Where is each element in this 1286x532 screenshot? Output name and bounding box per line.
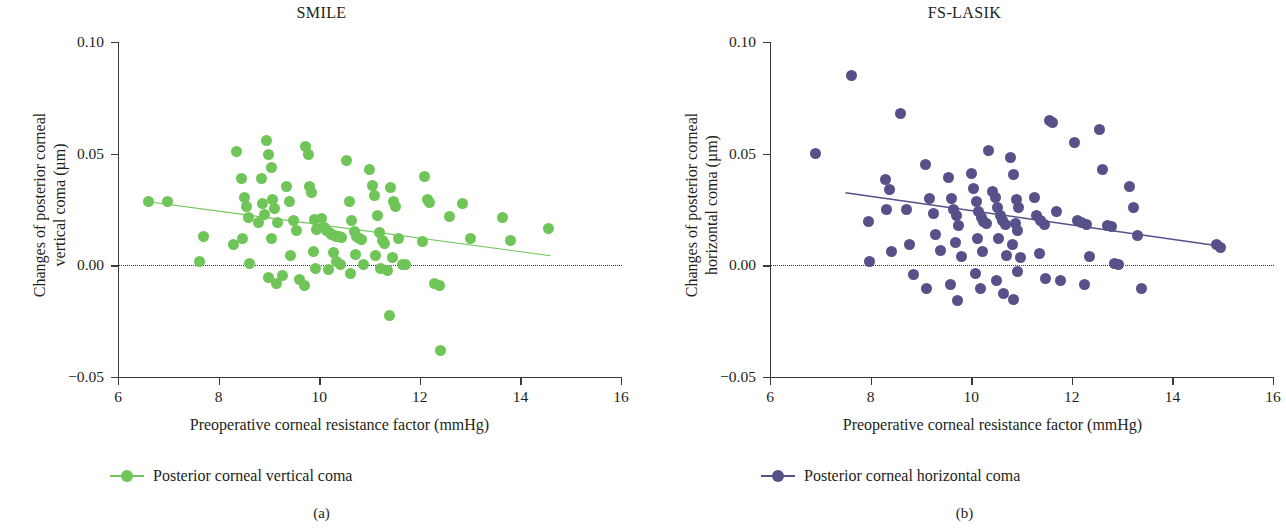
panel-a-x-tick-label: 8 [199, 388, 239, 406]
data-point [956, 251, 967, 262]
panel-b-x-tick [770, 378, 771, 385]
panel-a-plot-area [118, 42, 621, 377]
data-point [244, 258, 255, 269]
panel-a-y-axis-label-line2: vertical coma (µm) [50, 45, 70, 365]
data-point [971, 196, 982, 207]
panel-b-y-axis-label-line2: horizontal coma (µm) [702, 45, 722, 365]
panel-b-plot-area [770, 42, 1273, 377]
panel-b-x-tick-label: 8 [851, 388, 891, 406]
data-point [945, 279, 956, 290]
data-point [921, 283, 932, 294]
data-point [143, 196, 154, 207]
data-point [935, 245, 946, 256]
data-point [1113, 259, 1124, 270]
panel-a-x-tick [219, 378, 220, 385]
data-point [810, 148, 821, 159]
panel-a-y-tick [111, 42, 118, 43]
data-point [266, 233, 277, 244]
data-point [543, 223, 554, 234]
data-point [1136, 283, 1147, 294]
data-point [1094, 124, 1105, 135]
panel-a-x-tick-label: 10 [299, 388, 339, 406]
panel-b-y-tick [763, 154, 770, 155]
panel-b-y-tick-label: 0.05 [652, 145, 756, 163]
data-point [1001, 250, 1012, 261]
panel-b-y-tick [763, 377, 770, 378]
data-point [281, 181, 292, 192]
panel-b-y-tick [763, 265, 770, 266]
panel-b-legend-marker-icon [761, 469, 795, 483]
data-point [350, 249, 361, 260]
data-point [1106, 221, 1117, 232]
panel-b-x-tick [1273, 378, 1274, 385]
data-point [1034, 248, 1045, 259]
panel-a-x-axis-label: Preoperative corneal resistance factor (… [0, 416, 661, 434]
data-point [236, 173, 247, 184]
data-point [970, 268, 981, 279]
data-point [194, 256, 205, 267]
data-point [975, 283, 986, 294]
panel-a-x-axis-line [118, 377, 622, 378]
data-point [863, 216, 874, 227]
data-point [284, 196, 295, 207]
data-point [385, 182, 396, 193]
data-point [1039, 219, 1050, 230]
panel-b-x-tick-label: 6 [750, 388, 790, 406]
data-point [345, 268, 356, 279]
panel-b-y-axis-label-line1: Changes of posterior corneal [682, 45, 702, 365]
data-point [1029, 192, 1040, 203]
panel-a-legend: Posterior corneal vertical coma [110, 467, 352, 485]
panel-b-subfigure-label: (b) [643, 505, 1286, 522]
panel-a-y-tick [111, 154, 118, 155]
panel-a-x-tick [621, 378, 622, 385]
data-point [991, 275, 1002, 286]
data-point [977, 246, 988, 257]
figure-container: SMILE Changes of posterior corneal verti… [0, 0, 1286, 532]
data-point [1128, 202, 1139, 213]
data-point [1040, 273, 1051, 284]
data-point [953, 220, 964, 231]
panel-smile: SMILE Changes of posterior corneal verti… [0, 0, 643, 532]
panel-b-x-tick-label: 12 [1052, 388, 1092, 406]
panel-a-y-tick-label: 0.00 [0, 256, 104, 274]
panel-a-y-tick-label: 0.05 [0, 145, 104, 163]
panel-b-x-tick-label: 10 [951, 388, 991, 406]
data-point [241, 201, 252, 212]
data-point [904, 239, 915, 250]
data-point [1012, 225, 1023, 236]
data-point [1079, 279, 1090, 290]
data-point [335, 259, 346, 270]
panel-a-x-tick-label: 6 [98, 388, 138, 406]
data-point [310, 263, 321, 274]
data-point [382, 265, 393, 276]
panel-b-title: FS-LASIK [643, 4, 1286, 22]
panel-b-y-tick-label: 0.00 [652, 256, 756, 274]
data-point [379, 238, 390, 249]
data-point [1051, 206, 1062, 217]
data-point [387, 252, 398, 263]
panel-b-x-tick [1072, 378, 1073, 385]
panel-a-legend-marker-icon [110, 469, 144, 483]
panel-a-x-tick [319, 378, 320, 385]
panel-a-x-tick [520, 378, 521, 385]
data-point [303, 149, 314, 160]
data-point [908, 269, 919, 280]
panel-a-subfigure-label: (a) [0, 505, 643, 522]
data-point [266, 162, 277, 173]
panel-a-x-tick-label: 12 [400, 388, 440, 406]
data-point [231, 146, 242, 157]
data-point [372, 210, 383, 221]
panel-a-y-axis-label: Changes of posterior corneal vertical co… [30, 45, 71, 365]
data-point [928, 208, 939, 219]
panel-fs-lasik: FS-LASIK Changes of posterior corneal ho… [643, 0, 1286, 532]
data-point [952, 295, 963, 306]
panel-b-x-tick [971, 378, 972, 385]
panel-b-x-axis-label: Preoperative corneal resistance factor (… [643, 416, 1286, 434]
data-point [323, 264, 334, 275]
data-point [966, 168, 977, 179]
panel-a-title: SMILE [0, 4, 643, 22]
data-point [846, 70, 857, 81]
panel-b-y-tick-label: −0.05 [652, 368, 756, 386]
panel-a-x-tick-label: 16 [601, 388, 641, 406]
data-point [946, 193, 957, 204]
